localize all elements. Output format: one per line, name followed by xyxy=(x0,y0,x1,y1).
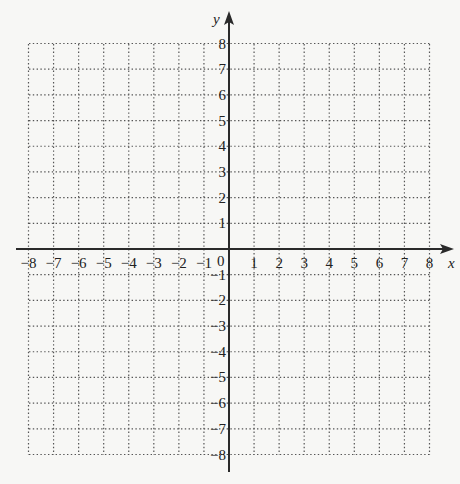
y-tick-label: −8 xyxy=(210,447,226,463)
y-tick-label: −4 xyxy=(210,344,226,360)
y-tick-label: 6 xyxy=(219,87,227,103)
x-tick-label: 5 xyxy=(351,255,359,271)
y-tick-label: −7 xyxy=(210,421,226,437)
y-tick-label: 1 xyxy=(219,215,227,231)
x-tick-label: −6 xyxy=(71,255,87,271)
y-tick-label: 3 xyxy=(219,164,227,180)
x-tick-label: 6 xyxy=(376,255,384,271)
x-tick-label: −7 xyxy=(46,255,62,271)
x-tick-label: −2 xyxy=(171,255,187,271)
y-tick-label: −6 xyxy=(210,395,226,411)
x-tick-label: −4 xyxy=(121,255,137,271)
x-tick-labels: −8−7−6−5−4−3−2−112345678 xyxy=(21,255,434,271)
y-axis-label: y xyxy=(211,11,220,27)
x-tick-label: −3 xyxy=(146,255,162,271)
coordinate-plane: −8−7−6−5−4−3−2−112345678 87654321−1−2−3−… xyxy=(0,0,460,484)
x-axis-label: x xyxy=(447,255,455,271)
x-tick-label: −5 xyxy=(96,255,112,271)
x-tick-label: 4 xyxy=(326,255,334,271)
y-tick-label: −5 xyxy=(210,369,226,385)
y-tick-label: 4 xyxy=(219,138,227,154)
x-tick-label: 2 xyxy=(275,255,283,271)
y-tick-label: −1 xyxy=(210,267,226,283)
origin-label: 0 xyxy=(217,253,225,269)
y-tick-label: 2 xyxy=(219,190,227,206)
x-tick-label: −8 xyxy=(21,255,37,271)
x-tick-label: 3 xyxy=(300,255,308,271)
x-tick-label: 1 xyxy=(250,255,258,271)
x-tick-label: 7 xyxy=(401,255,409,271)
y-tick-label: −2 xyxy=(210,292,226,308)
y-tick-label: 8 xyxy=(219,36,227,52)
y-tick-label: −3 xyxy=(210,318,226,334)
x-tick-label: 8 xyxy=(426,255,434,271)
y-tick-label: 5 xyxy=(219,113,227,129)
y-tick-label: 7 xyxy=(219,61,227,77)
